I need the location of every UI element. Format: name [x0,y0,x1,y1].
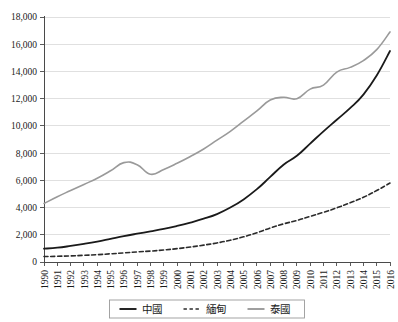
y-axis-tick-label: 14,000 [11,67,37,77]
x-axis-ticks: 1990199119921993199419951996199719981999… [40,262,396,289]
legend-label-0[interactable]: 中國 [142,303,162,315]
x-axis-tick-label: 1991 [53,270,63,289]
y-axis-tick-label: 12,000 [11,94,37,104]
x-axis-tick-label: 2013 [346,270,356,289]
x-axis-tick-label: 2012 [332,270,342,289]
x-axis-tick-label: 2005 [239,270,249,289]
x-axis-tick-label: 1998 [146,270,156,289]
x-axis-tick-label: 2006 [253,270,263,289]
x-axis-tick-label: 2010 [306,270,316,289]
x-axis-tick-label: 2008 [279,270,289,289]
x-axis-tick-label: 2007 [266,270,276,289]
legend-label-1[interactable]: 緬甸 [206,303,226,315]
x-axis-tick-label: 2004 [226,270,236,289]
axes [44,16,390,262]
y-axis-tick-label: 0 [32,257,37,267]
chart-legend[interactable]: 中國緬甸泰國 [110,300,305,318]
line-chart: 02,0004,0006,0008,00010,00012,00014,0001… [0,0,398,322]
x-axis-tick-label: 2000 [173,270,183,289]
x-axis-tick-label: 2015 [372,270,382,289]
x-axis-tick-label: 2001 [186,270,196,289]
series-line-0 [44,51,390,249]
x-axis-tick-label: 2016 [386,270,396,289]
series-line-1 [44,183,390,257]
data-series [44,32,390,257]
x-axis-tick-label: 2003 [213,270,223,289]
y-axis-tick-label: 10,000 [11,121,37,131]
legend-label-2[interactable]: 泰國 [270,303,290,315]
y-axis-tick-label: 4,000 [16,203,38,213]
x-axis-tick-label: 2009 [292,270,302,289]
x-axis-tick-label: 2014 [359,270,369,289]
y-axis-tick-label: 2,000 [16,230,38,240]
y-axis-tick-label: 8,000 [16,149,38,159]
x-axis-tick-label: 1992 [66,270,76,289]
x-axis-tick-label: 1990 [40,270,50,289]
x-axis-tick-label: 1999 [159,270,169,289]
x-axis-tick-label: 2002 [199,270,209,289]
x-axis-tick-label: 1993 [80,270,90,289]
y-axis-tick-label: 16,000 [11,40,37,50]
x-axis-tick-label: 1995 [106,270,116,289]
y-axis-tick-label: 6,000 [16,176,38,186]
y-axis-tick-label: 18,000 [11,12,37,22]
x-axis-tick-label: 1996 [119,270,129,289]
chart-container: 02,0004,0006,0008,00010,00012,00014,0001… [0,0,398,322]
gridlines [44,17,390,235]
y-axis-ticks: 02,0004,0006,0008,00010,00012,00014,0001… [11,12,44,267]
x-axis-tick-label: 1994 [93,270,103,289]
x-axis-tick-label: 2011 [319,270,329,289]
x-axis-tick-label: 1997 [133,270,143,289]
